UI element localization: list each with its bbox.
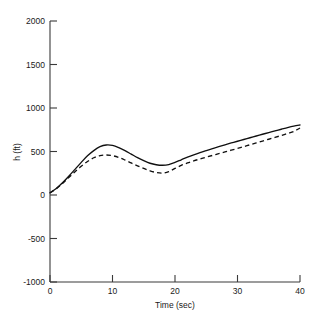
series-line-solid [50, 125, 300, 193]
y-axis-ticks [50, 21, 57, 282]
y-tick-label-1000: 1000 [26, 103, 45, 113]
x-tick-label-30: 30 [233, 286, 243, 296]
y-tick-label-0: 0 [40, 190, 45, 200]
x-tick-label-20: 20 [170, 286, 180, 296]
x-axis-ticks [50, 275, 300, 282]
y-tick-label-1500: 1500 [26, 60, 45, 70]
series-line-dashed [50, 128, 300, 193]
x-tick-label-10: 10 [108, 286, 118, 296]
x-axis-title: Time (sec) [155, 300, 195, 310]
y-tick-label-500: 500 [31, 147, 45, 157]
x-tick-label-40: 40 [295, 286, 305, 296]
y-tick-label-2000: 2000 [26, 16, 45, 26]
y-axis-title: h (ft) [12, 143, 22, 161]
chart-figure: 2000 1500 1000 500 0 -500 -1000 0 10 20 … [0, 0, 318, 314]
line-chart: 2000 1500 1000 500 0 -500 -1000 0 10 20 … [0, 0, 318, 314]
x-tick-label-0: 0 [48, 286, 53, 296]
y-tick-label-minus500: -500 [28, 234, 45, 244]
y-tick-label-minus1000: -1000 [23, 277, 45, 287]
